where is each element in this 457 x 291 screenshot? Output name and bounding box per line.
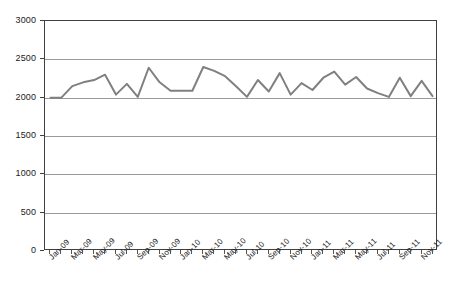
- x-tick-mark: [148, 250, 149, 254]
- x-tick-mark: [366, 250, 367, 254]
- plot-area: [44, 20, 437, 250]
- y-tick-label: 500: [21, 207, 36, 216]
- x-tick-mark: [344, 250, 345, 254]
- x-tick-mark: [235, 250, 236, 254]
- y-tick-label: 3000: [16, 16, 36, 25]
- series-line: [45, 21, 438, 251]
- y-axis: 050010001500200025003000: [0, 20, 44, 250]
- y-tick-label: 0: [31, 246, 36, 255]
- x-tick-mark: [60, 250, 61, 254]
- x-axis: Jan-09Mar-09May-09Jul-09Sep-09Nov-09Jan-…: [44, 250, 437, 291]
- series-polyline: [50, 67, 432, 98]
- x-tick-mark: [213, 250, 214, 254]
- x-tick-mark: [279, 250, 280, 254]
- x-tick-mark: [410, 250, 411, 254]
- y-tick-label: 2000: [16, 92, 36, 101]
- x-tick-mark: [104, 250, 105, 254]
- x-tick-mark: [191, 250, 192, 254]
- x-tick-mark: [301, 250, 302, 254]
- x-tick-mark: [126, 250, 127, 254]
- line-chart: 050010001500200025003000 Jan-09Mar-09May…: [0, 0, 457, 291]
- x-tick-mark: [322, 250, 323, 254]
- x-tick-mark: [432, 250, 433, 254]
- x-tick-mark: [170, 250, 171, 254]
- y-tick-label: 2500: [16, 54, 36, 63]
- x-tick-mark: [82, 250, 83, 254]
- x-tick-mark: [388, 250, 389, 254]
- y-tick-label: 1000: [16, 169, 36, 178]
- y-tick-label: 1500: [16, 131, 36, 140]
- x-tick-mark: [257, 250, 258, 254]
